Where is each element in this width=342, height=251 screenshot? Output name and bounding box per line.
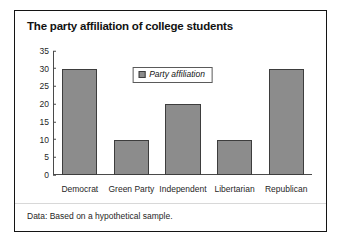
bar-democrat[interactable] [62,69,97,175]
y-axis-tick-label: 20 [40,100,53,109]
bar-slot [260,51,312,175]
x-axis-tick-label: Democrat [54,185,106,194]
y-axis-tick-label: 0 [44,171,53,180]
y-axis-tick-label: 10 [40,135,53,144]
bar-slot [106,51,158,175]
x-axis-tick-label: Independent [157,185,209,194]
bar-republican[interactable] [269,69,304,175]
footnote: Data: Based on a hypothetical sample. [27,211,173,221]
bar-libertarian[interactable] [217,140,252,175]
chart-card: The party affiliation of college student… [14,10,327,232]
page-title: The party affiliation of college student… [27,20,233,32]
y-axis-tick-label: 30 [40,64,53,73]
y-axis-tick-label: 35 [40,47,53,56]
bar-green-party[interactable] [114,140,149,175]
bar-independent[interactable] [165,104,200,175]
x-axis-tick-label: Republican [260,185,312,194]
y-axis-tick-label: 15 [40,118,53,127]
bar-series [54,51,312,175]
x-axis-tick-label: Libertarian [209,185,261,194]
x-axis-tick-label: Green Party [106,185,158,194]
bar-slot [54,51,106,175]
bar-slot [209,51,261,175]
axes: 05101520253035 [53,51,312,175]
bar-slot [157,51,209,175]
y-axis-tick-label: 25 [40,82,53,91]
x-axis-labels: DemocratGreen PartyIndependentLibertaria… [54,185,312,194]
chart-plot-area: Party affiliation 05101520253035 Democra… [27,45,318,197]
footer-divider [15,203,326,204]
y-axis-tick-label: 5 [44,153,53,162]
